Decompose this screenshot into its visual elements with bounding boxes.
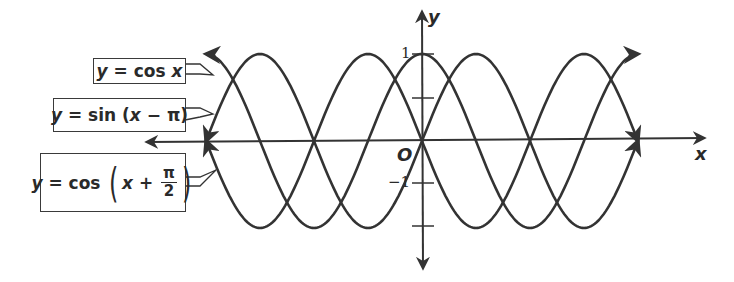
label-cos-shift: y = cos ( x + π 2 ) <box>40 153 186 212</box>
x-axis <box>147 138 704 142</box>
label-plus: + <box>133 173 159 193</box>
label-y: y <box>97 61 108 81</box>
origin-label: O <box>397 144 412 165</box>
label-x: x <box>130 105 141 125</box>
tick-label-1: 1 <box>401 44 411 62</box>
fraction-denominator: 2 <box>164 183 174 199</box>
label-x: x <box>172 61 183 81</box>
x-axis-label: x <box>695 143 707 164</box>
y-axis-label: y <box>428 6 440 27</box>
fraction-numerator: π <box>161 166 177 183</box>
label-y: y <box>51 105 62 125</box>
plot-area <box>0 0 734 282</box>
open-paren: ( <box>110 163 119 203</box>
label-x: x <box>122 173 133 193</box>
label-cos-x: y = cos x <box>93 58 186 84</box>
label-sin-shift: y = sin ( x − π) <box>53 98 186 132</box>
label-eq: = cos <box>108 61 172 81</box>
graph-figure: y = cos x y = sin ( x − π) y = cos ( x +… <box>0 0 734 282</box>
fraction-pi-over-2: π 2 <box>161 166 177 199</box>
label-y: y <box>31 173 42 193</box>
label-eq: = sin ( <box>62 105 130 125</box>
label-eq: = cos <box>43 173 107 193</box>
label-rest: − π) <box>141 105 188 125</box>
tick-label-neg1: −1 <box>388 173 410 191</box>
close-paren: ) <box>182 163 191 203</box>
